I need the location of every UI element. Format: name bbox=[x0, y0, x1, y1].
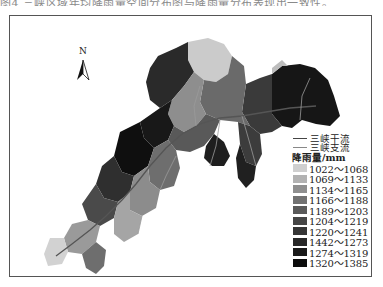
legend-class-10: 1320～1385 bbox=[292, 258, 372, 269]
legend-swatch bbox=[293, 217, 307, 225]
north-arrow: N bbox=[74, 46, 94, 86]
legend-tributary: 三峡支流 bbox=[292, 143, 372, 152]
legend-swatch bbox=[293, 164, 307, 172]
legend-swatch bbox=[293, 259, 307, 267]
legend-swatch bbox=[293, 248, 307, 256]
region-northeast bbox=[272, 64, 340, 128]
legend-swatch bbox=[293, 206, 307, 214]
legend-swatch bbox=[293, 175, 307, 183]
north-label: N bbox=[79, 46, 87, 56]
legend-swatch bbox=[293, 185, 307, 193]
legend-swatch bbox=[293, 196, 307, 204]
legend-swatch bbox=[293, 238, 307, 246]
mainstream-line-icon bbox=[293, 138, 307, 139]
partial-caption-text: 图4 三峡区域年均降雨量空间分布图与降雨量分布表现出一致性。 bbox=[0, 0, 383, 6]
legend-tributary-label: 三峡支流 bbox=[310, 143, 350, 152]
region-southwest-2 bbox=[44, 238, 68, 266]
legend-swatch bbox=[293, 227, 307, 235]
legend-class-label: 1320～1385 bbox=[309, 255, 368, 270]
map-legend: 三峡干流 三峡支流 降雨量/mm 1022～1068 1069～1133 113… bbox=[292, 134, 372, 268]
map-frame: N 三峡干流 三峡支流 降雨量/mm 1022～1068 1069～1133 1… bbox=[9, 15, 372, 277]
tributary-line-icon bbox=[293, 147, 307, 148]
